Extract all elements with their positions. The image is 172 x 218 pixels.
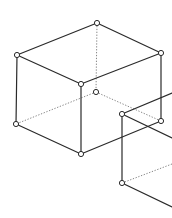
edge bbox=[122, 183, 172, 207]
vertices bbox=[13, 20, 163, 185]
vertex-cube1-bottom-left bbox=[13, 121, 18, 126]
vertex-cube2-top-left bbox=[119, 111, 124, 116]
vertex-cube1-bottom-right bbox=[158, 118, 163, 123]
hidden-edge bbox=[122, 164, 172, 183]
edge bbox=[17, 23, 97, 55]
hidden-edge bbox=[16, 92, 96, 124]
vertex-cube1-bottom-back-hidden bbox=[93, 89, 98, 94]
edge bbox=[16, 124, 81, 154]
edge bbox=[16, 55, 17, 124]
cube-wireframe-diagram bbox=[0, 0, 172, 218]
edge bbox=[97, 23, 161, 53]
edge bbox=[81, 121, 161, 154]
edge bbox=[17, 55, 81, 84]
vertex-cube1-top-right bbox=[158, 50, 163, 55]
vertex-cube1-top-back bbox=[94, 20, 99, 25]
vertex-cube1-top-front bbox=[78, 81, 83, 86]
hidden-edge bbox=[96, 23, 97, 92]
edge bbox=[81, 53, 161, 84]
edge bbox=[122, 93, 172, 114]
vertex-cube1-top-left bbox=[14, 52, 19, 57]
vertex-cube1-bottom-front bbox=[78, 151, 83, 156]
vertex-cube2-bottom-left bbox=[119, 180, 124, 185]
